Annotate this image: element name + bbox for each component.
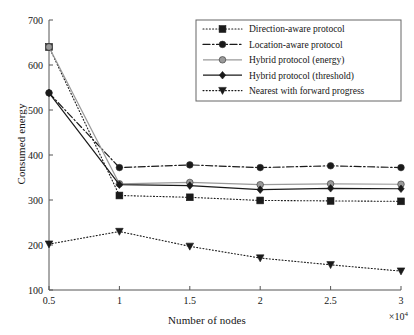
data-point-marker <box>257 197 264 204</box>
y-axis-tick-label: 500 <box>28 105 43 116</box>
x-axis-tick-label: 2 <box>258 295 263 306</box>
x-axis-tick-label: 3 <box>399 295 404 306</box>
y-axis-tick-label: 200 <box>28 240 43 251</box>
y-axis-title-wrapper: Consumed energy <box>11 69 29 219</box>
data-point-marker <box>186 194 193 201</box>
x-axis-tick-label: 0.5 <box>43 295 56 306</box>
data-point-marker <box>219 26 226 33</box>
data-point-marker <box>186 243 194 250</box>
x-axis-multiplier: ×104 <box>389 310 408 322</box>
x-axis-tick-label: 2.5 <box>324 295 337 306</box>
series-line <box>49 232 401 272</box>
data-point-marker <box>116 192 123 199</box>
series-4 <box>46 89 404 193</box>
x-axis-multiplier-exponent: 4 <box>405 310 409 318</box>
data-point-marker <box>257 164 264 171</box>
legend-label: Direction-aware protocol <box>249 24 345 34</box>
legend-label: Hybrid protocol (energy) <box>249 55 344 66</box>
data-point-marker <box>327 198 334 205</box>
series-line <box>49 93 401 168</box>
data-point-marker <box>219 41 226 48</box>
chart-legend: Direction-aware protocolLocation-aware p… <box>196 20 401 101</box>
legend-label: Location-aware protocol <box>249 40 343 50</box>
x-axis-title: Number of nodes <box>0 314 414 326</box>
x-axis-tick-label: 1 <box>117 295 122 306</box>
data-point-marker <box>187 162 194 169</box>
data-point-marker <box>45 241 53 248</box>
y-axis-title: Consumed energy <box>15 103 27 184</box>
data-point-marker <box>327 163 334 170</box>
data-point-marker <box>398 164 405 171</box>
x-axis-multiplier-base: ×10 <box>389 311 405 322</box>
series-5 <box>45 228 405 275</box>
legend-label: Hybrid protocol (threshold) <box>249 71 354 82</box>
y-axis-tick-label: 400 <box>28 150 43 161</box>
y-axis-tick-label: 100 <box>28 285 43 296</box>
legend-label: Nearest with forward progress <box>249 86 365 96</box>
data-point-marker <box>46 44 53 51</box>
y-axis-tick-label: 600 <box>28 60 43 71</box>
data-point-marker <box>398 198 405 205</box>
y-axis-tick-label: 700 <box>28 15 43 26</box>
x-axis-tick-label: 1.5 <box>184 295 197 306</box>
chart-figure: 1002003004005006007000.511.522.53Directi… <box>0 0 414 335</box>
data-point-marker <box>397 268 405 275</box>
chart-plot-area: 1002003004005006007000.511.522.53Directi… <box>0 0 414 335</box>
y-axis-tick-label: 300 <box>28 195 43 206</box>
data-point-marker <box>116 164 123 171</box>
series-line <box>49 93 401 190</box>
data-point-marker <box>219 57 226 64</box>
